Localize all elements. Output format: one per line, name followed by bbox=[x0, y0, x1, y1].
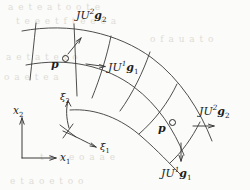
vector-label-upper-g2-operator: JU bbox=[76, 9, 90, 22]
cartesian-axis-label-x2: x2 bbox=[13, 105, 23, 119]
grid-arc-outer bbox=[22, 28, 212, 141]
curvilinear-axis-label-xi2-subscript: 2 bbox=[66, 97, 70, 105]
vector-label-upper-g1-basis: g bbox=[126, 61, 134, 74]
vector-label-upper-g1-subscript: 1 bbox=[134, 67, 139, 76]
cartesian-axis-label-x2-subscript: 2 bbox=[19, 111, 23, 119]
point-marker-lower-label: p bbox=[158, 122, 166, 135]
arrow-shaft-xi1 bbox=[63, 131, 96, 147]
vector-label-lower-g1: JU1g1 bbox=[161, 166, 192, 181]
vector-label-upper-g1-operator: JU bbox=[108, 61, 122, 74]
vector-label-lower-g2-operator: JU bbox=[199, 105, 213, 118]
grid-radial-1 bbox=[30, 23, 36, 80]
vector-label-upper-g1: JU1g1 bbox=[108, 60, 139, 75]
vector-label-upper-g2: JU2g2 bbox=[76, 8, 107, 23]
point-marker-upper-label: p bbox=[51, 58, 59, 71]
vector-label-lower-g1-subscript: 1 bbox=[187, 173, 192, 182]
curvilinear-axis-label-xi2: ξ2 bbox=[60, 92, 70, 105]
curvilinear-axis-label-xi1-subscript: 1 bbox=[106, 147, 110, 155]
vector-label-upper-g2-basis: g bbox=[94, 9, 102, 22]
vector-label-lower-g2-basis: g bbox=[217, 105, 225, 118]
figure-canvas: a e t e a t o o t e t e e e t f t e e e … bbox=[0, 0, 250, 190]
vector-label-upper-g2-subscript: 2 bbox=[102, 15, 107, 24]
vector-label-lower-g1-basis: g bbox=[179, 167, 187, 180]
vector-label-lower-g2-subscript: 2 bbox=[225, 111, 230, 120]
grid-radial-2 bbox=[74, 24, 77, 96]
arrow-head-xi1 bbox=[90, 143, 96, 147]
vector-label-lower-g1-operator: JU bbox=[161, 167, 175, 180]
cartesian-axis-label-x1: x1 bbox=[60, 152, 70, 166]
point-marker-upper-circle-icon bbox=[62, 55, 69, 62]
curvilinear-axis-label-xi1: ξ1 bbox=[100, 142, 110, 155]
local-frame-tick-b bbox=[63, 124, 73, 138]
cartesian-axis-label-x1-subscript: 1 bbox=[66, 158, 70, 166]
diagram-vector-graphics bbox=[0, 0, 250, 190]
point-marker-upper: p bbox=[51, 55, 69, 70]
arrow-shaft-xi2 bbox=[67, 101, 69, 128]
vector-label-lower-g2: JU2g2 bbox=[199, 104, 230, 119]
point-marker-lower: p bbox=[158, 119, 176, 134]
point-marker-lower-circle-icon bbox=[169, 119, 176, 126]
